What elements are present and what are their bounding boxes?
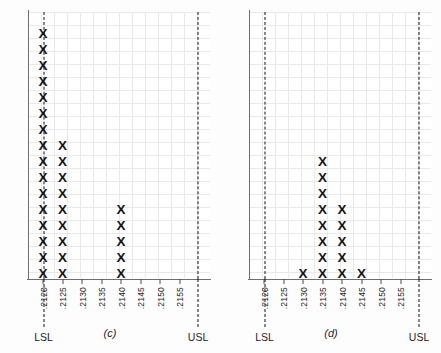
caption-d: (d) <box>221 327 441 339</box>
x-tick-label: .2125 <box>58 287 68 309</box>
data-mark-x: X <box>116 203 125 217</box>
data-mark-x: X <box>318 203 327 217</box>
x-tick <box>62 279 63 284</box>
data-mark-x: X <box>337 235 346 249</box>
data-marks-d: XXXXXXXXXXXXXXX <box>249 12 431 279</box>
data-mark-x: X <box>116 219 125 233</box>
figure-page: XXXXXXXXXXXXXXXXXXXXXXXXXXXXXX .2120.212… <box>0 0 441 353</box>
x-tick <box>361 279 362 284</box>
spec-limit-tick-lsl <box>264 279 265 327</box>
x-tick <box>283 279 284 284</box>
spec-limit-tick-lsl <box>43 279 44 327</box>
data-mark-x: X <box>58 251 67 265</box>
x-tick-label: .2155 <box>396 287 406 309</box>
data-mark-x: X <box>337 219 346 233</box>
data-mark-x: X <box>318 155 327 169</box>
panel-chart-d: XXXXXXXXXXXXXXX .2120.2125.2130.2135.214… <box>221 0 441 353</box>
x-tick-label: .2150 <box>377 287 387 309</box>
x-tick-label: .2140 <box>117 287 127 309</box>
data-mark-x: X <box>318 235 327 249</box>
x-axis-ticks-c: .2120.2125.2130.2135.2140.2145.2150.2155… <box>28 279 210 353</box>
x-axis-ticks-d: .2120.2125.2130.2135.2140.2145.2150.2155… <box>249 279 431 353</box>
spec-limit-tick-usl <box>198 279 199 327</box>
data-marks-c: XXXXXXXXXXXXXXXXXXXXXXXXXXXXXX <box>28 12 210 279</box>
x-tick <box>342 279 343 284</box>
data-mark-x: X <box>318 171 327 185</box>
data-mark-x: X <box>58 203 67 217</box>
x-tick <box>140 279 141 284</box>
data-mark-x: X <box>337 251 346 265</box>
data-mark-x: X <box>58 171 67 185</box>
data-mark-x: X <box>318 187 327 201</box>
x-tick-label: .2135 <box>318 287 328 309</box>
data-mark-x: X <box>318 219 327 233</box>
x-tick-label: .2125 <box>279 287 289 309</box>
data-mark-x: X <box>58 219 67 233</box>
data-mark-x: X <box>318 251 327 265</box>
x-tick <box>160 279 161 284</box>
data-mark-x: X <box>58 155 67 169</box>
x-tick <box>101 279 102 284</box>
x-tick-label: .2155 <box>175 287 185 309</box>
x-tick-label: .2140 <box>338 287 348 309</box>
x-tick <box>322 279 323 284</box>
data-mark-x: X <box>58 139 67 153</box>
x-tick <box>179 279 180 284</box>
data-mark-x: X <box>116 251 125 265</box>
data-mark-x: X <box>337 203 346 217</box>
x-tick-label: .2135 <box>97 287 107 309</box>
x-tick <box>121 279 122 284</box>
data-mark-x: X <box>58 235 67 249</box>
x-tick <box>82 279 83 284</box>
spec-limit-tick-usl <box>419 279 420 327</box>
panel-chart-c: XXXXXXXXXXXXXXXXXXXXXXXXXXXXXX .2120.212… <box>0 0 220 353</box>
spec-limit-line-usl <box>198 12 199 279</box>
x-tick-label: .2150 <box>156 287 166 309</box>
x-tick-label: .2130 <box>299 287 309 309</box>
x-tick-label: .2145 <box>136 287 146 309</box>
spec-limit-line-lsl <box>43 12 44 279</box>
x-tick <box>400 279 401 284</box>
data-mark-x: X <box>58 187 67 201</box>
caption-c: (c) <box>0 327 220 339</box>
data-mark-x: X <box>116 235 125 249</box>
x-tick-label: .2145 <box>357 287 367 309</box>
spec-limit-line-lsl <box>264 12 265 279</box>
x-tick-label: .2130 <box>78 287 88 309</box>
x-tick <box>303 279 304 284</box>
x-tick <box>381 279 382 284</box>
spec-limit-line-usl <box>419 12 420 279</box>
